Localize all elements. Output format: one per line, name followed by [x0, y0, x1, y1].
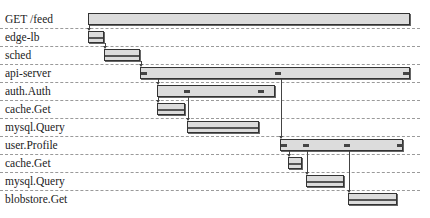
- span-stripe: [105, 55, 139, 57]
- span-bar[interactable]: [187, 121, 259, 133]
- span-label: sched: [5, 48, 31, 62]
- span-label: GET /feed: [5, 12, 53, 26]
- parent-link: [281, 79, 282, 137]
- span-bar[interactable]: [88, 31, 104, 43]
- span-tick: [184, 90, 190, 93]
- span-stripe: [289, 163, 301, 165]
- span-tick: [275, 72, 281, 75]
- parent-link: [307, 151, 308, 173]
- span-label: api-server: [5, 66, 51, 80]
- span-bar[interactable]: [104, 49, 140, 61]
- span-bar[interactable]: [88, 13, 410, 25]
- arrow-down-icon: [186, 118, 190, 121]
- span-stripe: [89, 37, 103, 39]
- arrow-down-icon: [287, 154, 291, 157]
- span-stripe: [307, 181, 343, 183]
- span-label: edge-lb: [5, 30, 39, 44]
- span-label: cache.Get: [5, 102, 51, 116]
- row-separator: [0, 154, 420, 155]
- span-bar[interactable]: [280, 139, 403, 151]
- span-bar[interactable]: [288, 157, 302, 169]
- span-label: auth.Auth: [5, 84, 51, 98]
- span-label: blobstore.Get: [5, 192, 67, 206]
- row-separator: [0, 100, 420, 101]
- span-tick: [141, 72, 147, 75]
- arrow-down-icon: [305, 172, 309, 175]
- span-tick: [303, 144, 309, 147]
- span-tick: [258, 90, 264, 93]
- span-label: cache.Get: [5, 156, 51, 170]
- parent-link: [349, 151, 350, 191]
- span-tick: [403, 72, 409, 75]
- row-separator: [0, 136, 420, 137]
- span-tick: [344, 144, 350, 147]
- arrow-down-icon: [139, 64, 143, 67]
- arrow-down-icon: [156, 82, 160, 85]
- span-tick: [397, 144, 403, 147]
- row-separator: [0, 172, 420, 173]
- row-separator: [0, 190, 420, 191]
- span-stripe: [158, 109, 184, 111]
- arrow-down-icon: [156, 100, 160, 103]
- span-stripe: [349, 199, 396, 201]
- arrow-down-icon: [103, 46, 107, 49]
- span-bar[interactable]: [157, 85, 275, 97]
- span-label: mysql.Query: [5, 174, 65, 188]
- row-separator: [0, 118, 420, 119]
- span-stripe: [188, 127, 258, 129]
- arrow-down-icon: [347, 190, 351, 193]
- span-label: user.Profile: [5, 138, 58, 152]
- span-bar[interactable]: [157, 103, 185, 115]
- span-label: mysql.Query: [5, 120, 65, 134]
- span-bar[interactable]: [140, 67, 410, 79]
- row-separator: [0, 28, 420, 29]
- parent-link: [188, 97, 189, 119]
- arrow-down-icon: [87, 28, 91, 31]
- span-bar[interactable]: [306, 175, 344, 187]
- row-separator: [0, 46, 420, 47]
- arrow-down-icon: [279, 136, 283, 139]
- row-separator: [0, 82, 420, 83]
- row-separator: [0, 64, 420, 65]
- span-tick: [281, 144, 287, 147]
- span-bar[interactable]: [348, 193, 397, 205]
